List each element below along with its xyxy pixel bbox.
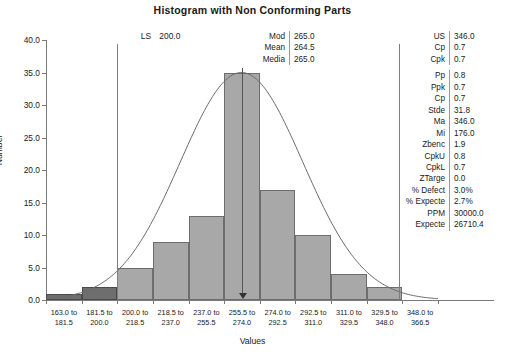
stat-row: Pp0.8 xyxy=(389,70,505,81)
stat-value: 0.8 xyxy=(449,70,505,81)
x-tick-mark xyxy=(46,300,47,304)
x-tick-label-line: 181.5 xyxy=(55,318,73,327)
chart-title: Histogram with Non Conforming Parts xyxy=(0,4,505,16)
x-tick-label-line: 218.5 to xyxy=(158,308,184,317)
lower-spec-annotation: LS 200.0 xyxy=(133,31,180,41)
lower-spec-line xyxy=(117,44,118,300)
stat-value: 346.0 xyxy=(449,116,505,127)
stat-row: CpkL0.7 xyxy=(389,162,505,173)
stat-row: PPM30000.0 xyxy=(389,208,505,219)
stat-row: Media265.0 xyxy=(249,54,334,65)
stat-row: Stde31.8 xyxy=(389,105,505,116)
stat-value: 0.7 xyxy=(449,54,505,65)
stat-row: ZTarge0.0 xyxy=(389,173,505,184)
x-tick-label-line: 255.5 xyxy=(197,318,215,327)
x-tick-mark xyxy=(224,300,225,304)
stat-value: 30000.0 xyxy=(449,208,505,219)
stat-value: 265.0 xyxy=(289,31,334,42)
stat-row: Ma346.0 xyxy=(389,116,505,127)
stat-key: Ma xyxy=(389,116,449,127)
stat-value: 265.0 xyxy=(289,54,334,65)
stat-key: Cp xyxy=(389,93,449,104)
x-axis-title: Values xyxy=(0,336,505,346)
y-tick-label: 40.0 xyxy=(0,35,40,45)
stat-key: Cpk xyxy=(389,54,449,65)
stat-value: 3.0% xyxy=(449,185,505,196)
stat-row: % Expecte2.7% xyxy=(389,196,505,207)
stat-value: 0.0 xyxy=(449,173,505,184)
stat-key: ZTarge xyxy=(389,173,449,184)
y-tick-label: 15.0 xyxy=(0,198,40,208)
stat-row: Cp0.7 xyxy=(389,93,505,104)
x-tick-label-line: 292.5 to xyxy=(300,308,326,317)
stat-key: Mi xyxy=(389,128,449,139)
x-tick-mark xyxy=(117,300,118,304)
lower-spec-value: 200.0 xyxy=(153,31,180,41)
x-tick-label-line: 348.0 to xyxy=(407,308,433,317)
stat-key: Mod xyxy=(249,31,289,42)
stat-value: 1.9 xyxy=(449,139,505,150)
y-tick-label: 20.0 xyxy=(0,165,40,175)
stat-row: CpkU0.8 xyxy=(389,151,505,162)
center-statistics-panel: Mod265.0Mean264.5Media265.0 xyxy=(249,31,334,65)
stat-value: 2.7% xyxy=(449,196,505,207)
lower-spec-key: LS xyxy=(133,31,151,41)
stat-value: 176.0 xyxy=(449,128,505,139)
x-tick-label-line: 237.0 xyxy=(162,318,180,327)
x-tick-mark xyxy=(82,300,83,304)
y-tick-label: 35.0 xyxy=(0,68,40,78)
x-tick-label-line: 274.0 to xyxy=(264,308,290,317)
x-tick-label-line: 292.5 xyxy=(268,318,286,327)
stat-key: Mean xyxy=(249,42,289,53)
stat-row: Zbenc1.9 xyxy=(389,139,505,150)
center-marker-line xyxy=(242,68,243,294)
stat-key: Stde xyxy=(389,105,449,116)
stat-value: 0.7 xyxy=(449,82,505,93)
x-tick-label-line: 218.5 xyxy=(126,318,144,327)
x-tick-label-line: 274.0 xyxy=(233,318,251,327)
stat-row: Cpk0.7 xyxy=(389,54,505,65)
x-tick-label-line: 200.0 to xyxy=(122,308,148,317)
x-tick-label-line: 237.0 to xyxy=(193,308,219,317)
stat-value: 264.5 xyxy=(289,42,334,53)
stat-key: Media xyxy=(249,54,289,65)
x-tick-mark xyxy=(331,300,332,304)
stat-value: 346.0 xyxy=(449,31,505,42)
stat-key: Expecte xyxy=(389,219,449,230)
x-tick-mark xyxy=(295,300,296,304)
stat-value: 0.8 xyxy=(449,151,505,162)
stat-row: Expecte26710.4 xyxy=(389,219,505,230)
stat-key: % Expecte xyxy=(389,196,449,207)
stat-key: Ppk xyxy=(389,82,449,93)
x-tick-label-line: 348.0 xyxy=(375,318,393,327)
x-tick-label-line: 329.5 to xyxy=(371,308,397,317)
stat-value: 0.7 xyxy=(449,42,505,53)
y-tick-label: 25.0 xyxy=(0,133,40,143)
x-tick-mark xyxy=(402,300,403,304)
stat-row: Mod265.0 xyxy=(249,31,334,42)
stat-key: % Defect xyxy=(389,185,449,196)
capability-statistics-panel: US346.0Cp0.7Cpk0.7Pp0.8Ppk0.7Cp0.7Stde31… xyxy=(389,31,505,231)
x-tick-mark xyxy=(438,300,439,304)
x-tick-label-line: 311.0 xyxy=(304,318,322,327)
x-tick-mark xyxy=(260,300,261,304)
stat-row: Cp0.7 xyxy=(389,42,505,53)
x-tick-label-line: 366.5 xyxy=(411,318,429,327)
stat-key: Zbenc xyxy=(389,139,449,150)
x-tick-label-line: 255.5 to xyxy=(229,308,255,317)
center-marker-arrow-icon xyxy=(239,293,247,299)
stat-value: 26710.4 xyxy=(449,219,505,230)
stat-row: % Defect3.0% xyxy=(389,185,505,196)
stat-key: PPM xyxy=(389,208,449,219)
y-tick-label: 30.0 xyxy=(0,100,40,110)
stat-key: US xyxy=(389,31,449,42)
y-tick-label: 5.0 xyxy=(0,263,40,273)
stat-row: Mean264.5 xyxy=(249,42,334,53)
stat-value: 0.7 xyxy=(449,93,505,104)
stat-key: Cp xyxy=(389,42,449,53)
x-tick-label-line: 163.0 to xyxy=(51,308,77,317)
x-tick-label: 348.0 to366.5 xyxy=(398,308,442,327)
y-tick-label: 0.0 xyxy=(0,295,40,305)
stat-key: Pp xyxy=(389,70,449,81)
x-tick-label-line: 329.5 xyxy=(340,318,358,327)
